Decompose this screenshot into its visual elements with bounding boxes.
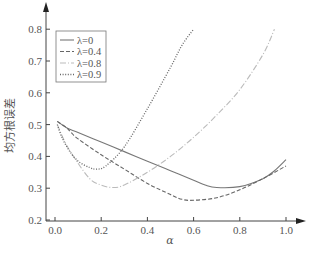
y-axis: 0.20.30.40.50.60.70.8: [28, 2, 50, 226]
legend-item-label: λ=0.9: [77, 69, 101, 80]
legend-item-label: λ=0: [77, 35, 93, 46]
x-tick-label: 0.2: [94, 224, 108, 236]
legend-item-label: λ=0.4: [77, 46, 102, 57]
y-tick-label: 0.3: [28, 182, 42, 194]
y-axis-arrow-icon: [43, 2, 49, 12]
x-axis: 0.00.20.40.60.81.0: [46, 217, 306, 236]
legend-item-label: λ=0.8: [77, 58, 101, 69]
series-line: [57, 121, 286, 187]
x-tick-label: 0.4: [141, 224, 155, 236]
y-tick-label: 0.2: [28, 214, 42, 226]
series-line: [57, 121, 286, 200]
y-tick-label: 0.7: [28, 55, 42, 67]
legend: λ=0λ=0.4λ=0.8λ=0.9: [56, 31, 106, 82]
y-tick-label: 0.8: [28, 23, 42, 35]
y-tick-label: 0.5: [28, 119, 42, 131]
y-tick-label: 0.4: [28, 150, 42, 162]
y-axis-label: 均方根误差: [3, 98, 17, 153]
x-tick-label: 1.0: [279, 224, 293, 236]
rmse-line-chart: 0.20.30.40.50.60.70.8 0.00.20.40.60.81.0…: [0, 0, 318, 253]
y-tick-label: 0.6: [28, 87, 42, 99]
x-tick-label: 0.0: [48, 224, 62, 236]
x-axis-arrow-icon: [296, 218, 306, 224]
x-tick-label: 0.8: [233, 224, 247, 236]
x-tick-label: 0.6: [187, 224, 201, 236]
x-axis-label: α: [166, 234, 174, 247]
